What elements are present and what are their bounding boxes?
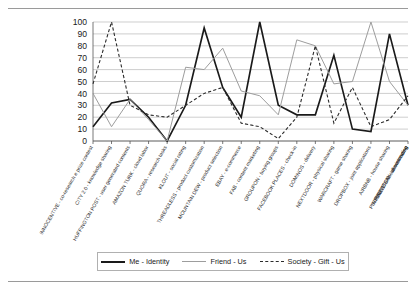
y-tick-label: 50 bbox=[77, 77, 87, 87]
x-axis-category-labels: INNOCENTIVE - co-research e prize contes… bbox=[38, 144, 409, 242]
y-tick-label: 60 bbox=[77, 65, 87, 75]
y-tick-label: 0 bbox=[82, 136, 87, 146]
legend-item-friend-us: Friend - Us bbox=[182, 257, 246, 266]
y-tick-label: 40 bbox=[77, 89, 87, 99]
line-chart-figure: 1009080706050403020100 INNOCENTIVE - co-… bbox=[0, 10, 416, 280]
y-tick-label: 20 bbox=[77, 112, 87, 122]
legend-swatch-friend-us bbox=[182, 261, 206, 262]
x-category-label: CITY 2.0 - knowledge sharing bbox=[73, 144, 112, 206]
legend-label-friend-us: Friend - Us bbox=[210, 257, 246, 266]
x-category-label: AMAZON TURK - cloud labor bbox=[111, 144, 150, 205]
chart-canvas: 1009080706050403020100 INNOCENTIVE - co-… bbox=[0, 10, 416, 280]
x-category-label: PIRATE BAY - downloading bbox=[372, 144, 409, 201]
axes-group bbox=[93, 22, 408, 144]
gridlines-group bbox=[93, 22, 408, 141]
x-category-label: GROUPON - buying groups bbox=[242, 144, 279, 202]
legend-swatch-society-gift-us bbox=[260, 261, 284, 262]
y-tick-label: 10 bbox=[77, 124, 87, 134]
legend-swatch-me-identity bbox=[101, 261, 125, 263]
legend-item-me-identity: Me - Identity bbox=[101, 257, 169, 266]
y-tick-label: 80 bbox=[77, 41, 87, 51]
top-horizontal-rule bbox=[8, 8, 408, 9]
y-tick-label: 90 bbox=[77, 29, 87, 39]
chart-legend: Me - Identity Friend - Us Society - Gift… bbox=[97, 252, 349, 271]
y-tick-label: 100 bbox=[73, 17, 88, 27]
y-tick-label: 30 bbox=[77, 100, 87, 110]
legend-item-society-gift-us: Society - Gift - Us bbox=[260, 257, 345, 266]
bottom-horizontal-rule bbox=[8, 281, 408, 282]
series-line-society-gift-us bbox=[93, 22, 408, 139]
x-category-label: WARCRAFT - game sharing bbox=[316, 144, 353, 203]
legend-label-society-gift-us: Society - Gift - Us bbox=[288, 257, 345, 266]
legend-label-me-identity: Me - Identity bbox=[129, 257, 169, 266]
y-axis-tick-labels: 1009080706050403020100 bbox=[73, 17, 88, 146]
y-tick-label: 70 bbox=[77, 53, 87, 63]
chart-page: 1009080706050403020100 INNOCENTIVE - co-… bbox=[0, 0, 416, 291]
x-category-label: DROPBOX - joint applications bbox=[332, 144, 372, 206]
